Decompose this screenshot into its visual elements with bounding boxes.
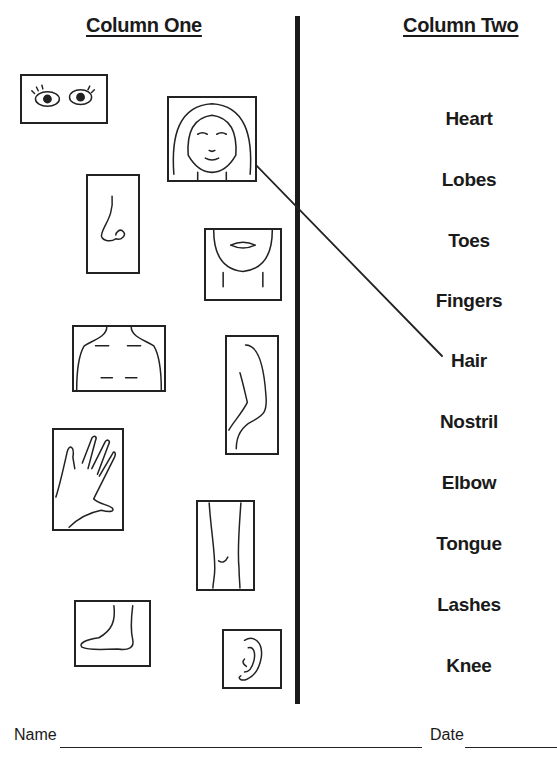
- picture-arm[interactable]: [225, 335, 279, 455]
- picture-nose[interactable]: [86, 174, 140, 274]
- date-label: Date: [430, 726, 464, 744]
- picture-face[interactable]: [167, 96, 257, 182]
- hand-icon: [54, 430, 122, 529]
- word-fingers[interactable]: Fingers: [394, 290, 544, 312]
- chest-icon: [74, 327, 164, 390]
- word-hair[interactable]: Hair: [394, 350, 544, 372]
- column-divider: [295, 16, 300, 704]
- ear-icon: [224, 631, 280, 687]
- knee-icon: [198, 502, 253, 589]
- chin-icon: [206, 230, 280, 299]
- word-nostril[interactable]: Nostril: [394, 411, 544, 433]
- date-field[interactable]: [465, 747, 557, 748]
- column-two-title: Column Two: [403, 14, 519, 37]
- word-tongue[interactable]: Tongue: [394, 533, 544, 555]
- picture-chest[interactable]: [72, 325, 166, 392]
- picture-knee[interactable]: [196, 500, 255, 591]
- picture-hand[interactable]: [52, 428, 124, 531]
- picture-ear[interactable]: [222, 629, 282, 689]
- word-heart[interactable]: Heart: [394, 108, 544, 130]
- foot-icon: [76, 602, 149, 665]
- arm-icon: [227, 337, 277, 453]
- word-knee[interactable]: Knee: [394, 655, 544, 677]
- word-lashes[interactable]: Lashes: [394, 594, 544, 616]
- picture-foot[interactable]: [74, 600, 151, 667]
- name-label: Name: [14, 726, 57, 744]
- picture-eyes[interactable]: [20, 74, 108, 124]
- eyes-icon: [22, 76, 106, 122]
- face-icon: [169, 98, 255, 180]
- word-lobes[interactable]: Lobes: [394, 169, 544, 191]
- word-toes[interactable]: Toes: [394, 230, 544, 252]
- word-elbow[interactable]: Elbow: [394, 472, 544, 494]
- column-one-title: Column One: [86, 14, 202, 37]
- picture-chin[interactable]: [204, 228, 282, 301]
- name-field[interactable]: [60, 747, 422, 748]
- nose-icon: [88, 176, 138, 272]
